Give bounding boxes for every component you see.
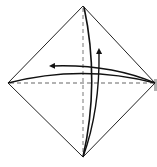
origami-diagram [0,0,157,167]
paper-diamond [8,6,155,157]
edge-shadow [154,79,157,91]
